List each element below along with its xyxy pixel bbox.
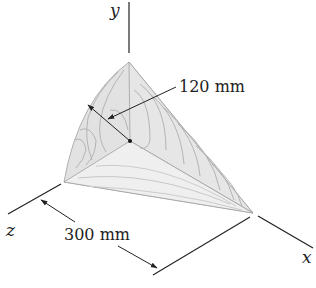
z-axis xyxy=(8,184,61,214)
length-label: 300 mm xyxy=(64,225,130,244)
quarter-cone-diagram: y z x xyxy=(0,0,316,288)
radius-label: 120 mm xyxy=(179,77,245,96)
y-axis-label: y xyxy=(109,0,120,20)
length-leader-arrow-left xyxy=(41,200,75,222)
x-axis xyxy=(258,216,313,248)
length-dimension-line xyxy=(153,217,250,275)
length-leader-arrow-right xyxy=(118,246,157,268)
z-axis-label: z xyxy=(5,220,16,240)
x-axis-label: x xyxy=(302,247,312,267)
